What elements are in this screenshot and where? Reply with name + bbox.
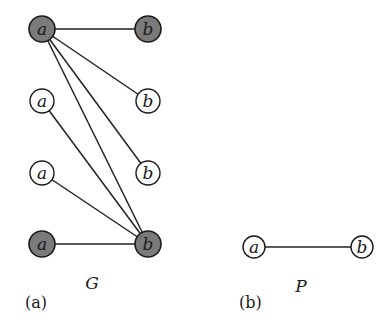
node-pa: a — [243, 236, 265, 258]
graph-g-edges — [42, 29, 148, 244]
node-a1: a — [29, 16, 55, 42]
panel-label-b: (b) — [239, 293, 262, 312]
figure-canvas: a a a a b b b b G (a) — [0, 0, 392, 331]
edge-a1-b2 — [42, 29, 148, 101]
node-label: b — [357, 237, 368, 257]
node-label: b — [143, 234, 154, 254]
node-b1: b — [135, 16, 161, 42]
node-a2: a — [30, 89, 54, 113]
edge-a3-b4 — [42, 173, 148, 244]
graph-label-g: G — [85, 273, 99, 293]
graph-label-p: P — [294, 276, 307, 296]
node-a4: a — [29, 231, 55, 257]
node-label: a — [37, 91, 47, 111]
node-label: b — [143, 163, 154, 183]
node-b2: b — [136, 89, 160, 113]
node-label: b — [143, 91, 154, 111]
node-label: a — [249, 237, 259, 257]
node-label: b — [143, 19, 154, 39]
edge-a1-b3 — [42, 29, 148, 173]
node-b4: b — [135, 231, 161, 257]
panel-label-a: (a) — [25, 293, 47, 312]
node-a3: a — [30, 161, 54, 185]
node-label: a — [37, 234, 47, 254]
edge-a1-b4 — [42, 29, 148, 244]
node-b3: b — [136, 161, 160, 185]
node-label: a — [37, 163, 47, 183]
node-pb: b — [351, 236, 373, 258]
node-label: a — [37, 19, 47, 39]
edge-a2-b4 — [42, 101, 148, 244]
